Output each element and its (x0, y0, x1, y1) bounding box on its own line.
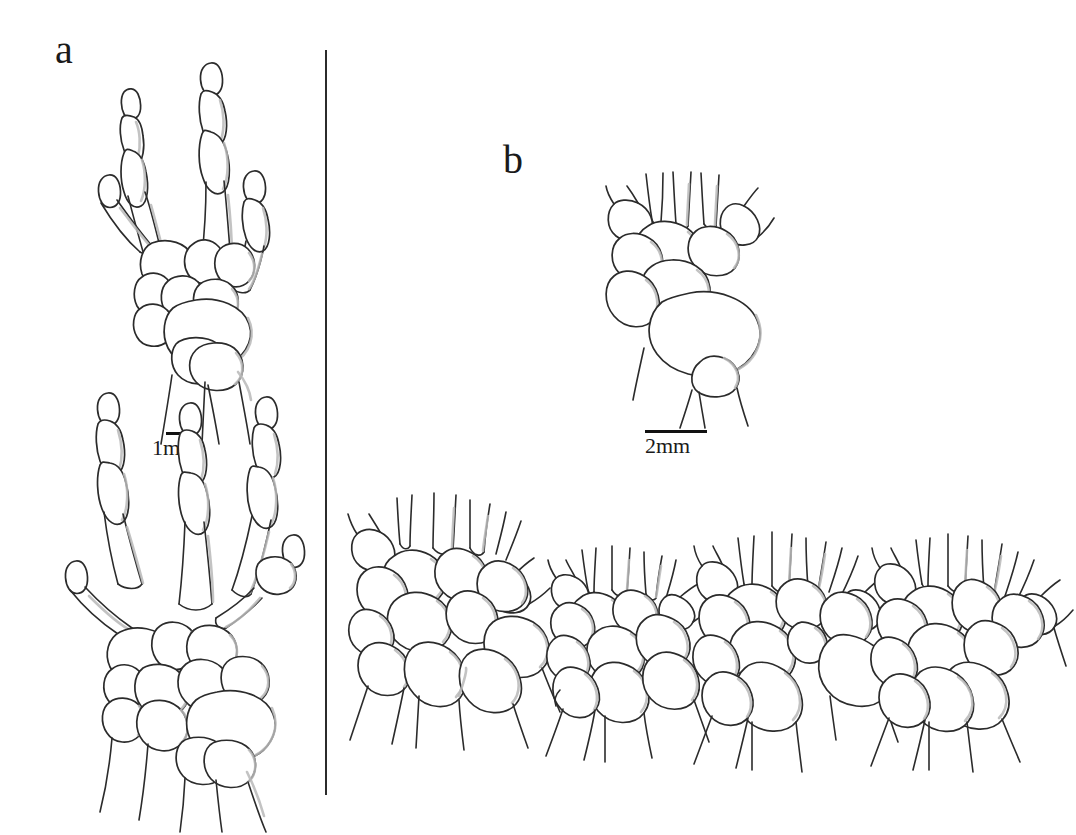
drawing-carpus-3 (693, 532, 900, 772)
figure-canvas: a b 1mm 2mm (0, 0, 1076, 835)
drawing-manus-upper (98, 63, 269, 444)
drawing-carpus-1 (348, 493, 560, 750)
drawing-carpus-4 (871, 534, 1073, 772)
limb-skeleton-artwork (0, 0, 1076, 835)
drawing-carpus-top (606, 172, 774, 428)
drawing-carpus-2 (546, 546, 712, 762)
drawing-pes-lower (65, 393, 304, 832)
